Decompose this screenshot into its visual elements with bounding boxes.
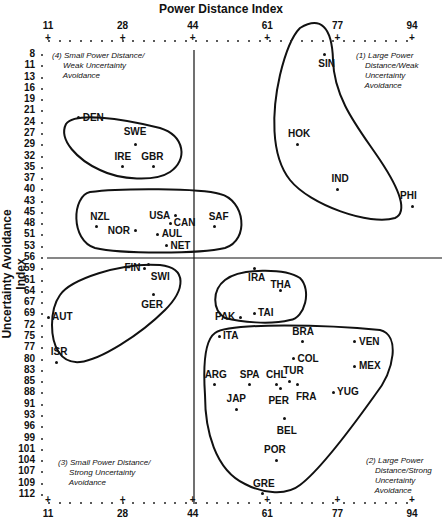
country-label: TUR — [283, 365, 304, 376]
data-point-ita — [218, 335, 221, 338]
y-axis-dot — [41, 201, 43, 203]
x-axis-dot — [280, 502, 282, 504]
country-label: GBR — [141, 151, 163, 162]
x-axis-dot — [122, 502, 124, 504]
quadrant-1-label: (1) Large Power Distance/Weak Uncertaint… — [356, 51, 419, 91]
x-tick-top: 28 — [108, 20, 138, 31]
x-tick-top: 11 — [33, 20, 63, 31]
x-axis-dot — [48, 40, 50, 42]
y-tick: 48 — [11, 217, 35, 228]
y-tick: 21 — [11, 104, 35, 115]
y-tick: 107 — [11, 465, 35, 476]
y-tick: 8 — [11, 48, 35, 59]
x-tick-bottom: 77 — [322, 508, 352, 519]
x-axis-dot — [122, 40, 124, 42]
y-tick: 104 — [11, 454, 35, 465]
y-tick: 61 — [11, 274, 35, 285]
y-axis-dot — [41, 336, 43, 338]
y-axis-dot — [41, 415, 43, 417]
x-axis-dot — [406, 502, 408, 504]
data-point-ind — [336, 188, 339, 191]
country-label: PER — [268, 395, 289, 406]
country-label: FIN — [124, 262, 140, 273]
x-axis-dot — [406, 40, 408, 42]
data-point-phi — [411, 205, 414, 208]
y-axis-dot — [41, 133, 43, 135]
country-label: AUT — [52, 311, 73, 322]
y-axis-dot — [41, 280, 43, 282]
country-label: IND — [331, 173, 348, 184]
country-label: POR — [264, 444, 286, 455]
y-tick: 16 — [11, 82, 35, 93]
x-axis-dot — [259, 40, 261, 42]
x-axis-dot — [164, 40, 166, 42]
data-point-por — [275, 459, 278, 462]
data-point-ira — [253, 267, 256, 270]
country-label: COL — [298, 353, 319, 364]
x-axis-dot — [185, 40, 187, 42]
y-tick: 56 — [11, 251, 35, 262]
y-axis-dot — [41, 438, 43, 440]
y-tick: 24 — [11, 116, 35, 127]
data-point-bra — [301, 340, 304, 343]
quadrant-2-label: (2) Large Power Distance/Strong Uncertai… — [366, 456, 432, 496]
y-tick: 96 — [11, 420, 35, 431]
y-axis-dot — [41, 404, 43, 406]
data-point-sin — [323, 53, 326, 56]
y-tick: 80 — [11, 353, 35, 364]
country-label: NET — [170, 240, 190, 251]
y-tick: 67 — [11, 296, 35, 307]
y-tick: 51 — [11, 228, 35, 239]
x-axis-dot — [101, 502, 103, 504]
y-tick: 91 — [11, 398, 35, 409]
country-label: IRE — [115, 151, 132, 162]
x-axis-dot — [80, 502, 82, 504]
x-tick-mark: + — [407, 494, 417, 505]
x-axis-dot — [259, 502, 261, 504]
country-label: USA — [149, 210, 170, 221]
data-point-fin — [143, 267, 146, 270]
y-tick: 93 — [11, 409, 35, 420]
country-label: NOR — [108, 225, 130, 236]
y-axis-dot — [41, 167, 43, 169]
country-label: IRA — [248, 272, 265, 283]
country-label: HOK — [288, 128, 310, 139]
country-label: THA — [270, 279, 291, 290]
y-tick: 83 — [11, 364, 35, 375]
x-axis-dot — [143, 502, 145, 504]
x-axis-dot — [322, 502, 324, 504]
country-label: PAK — [215, 311, 235, 322]
data-point-tai — [253, 312, 256, 315]
y-tick: 72 — [11, 319, 35, 330]
country-label: PHI — [400, 190, 417, 201]
y-tick: 13 — [11, 71, 35, 82]
country-label: GRE — [253, 478, 275, 489]
x-tick-bottom: 44 — [178, 508, 208, 519]
country-label: SAF — [209, 211, 229, 222]
x-axis-dot — [280, 40, 282, 42]
x-axis-dot — [248, 40, 250, 42]
country-label: SWE — [124, 126, 147, 137]
data-point-yug — [332, 391, 335, 394]
x-tick-bottom: 61 — [252, 508, 282, 519]
x-axis-dot — [206, 502, 208, 504]
x-axis-dot — [301, 40, 303, 42]
x-tick-top: 94 — [397, 20, 427, 31]
y-tick: 11 — [11, 59, 35, 70]
x-axis-dot — [59, 40, 61, 42]
x-axis-dot — [185, 502, 187, 504]
cluster-latin — [204, 326, 392, 493]
y-tick: 53 — [11, 240, 35, 251]
y-tick: 45 — [11, 206, 35, 217]
y-axis-dot — [41, 494, 43, 496]
x-axis-dot — [269, 40, 271, 42]
y-tick: 40 — [11, 183, 35, 194]
x-axis-dot — [206, 40, 208, 42]
y-tick: 109 — [11, 477, 35, 488]
country-label: JAP — [227, 393, 246, 404]
country-label: DEN — [83, 112, 104, 123]
x-axis-dot — [385, 502, 387, 504]
y-axis-dot — [41, 449, 43, 451]
country-label: TAI — [258, 307, 273, 318]
y-axis-dot — [41, 246, 43, 248]
